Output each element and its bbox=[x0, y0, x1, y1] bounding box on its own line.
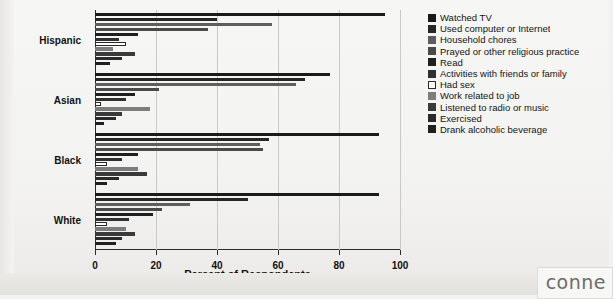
bar bbox=[95, 242, 116, 245]
bar bbox=[95, 83, 296, 86]
legend-item: Used computer or Internet bbox=[428, 23, 608, 34]
plot-area: 020406080100 bbox=[95, 10, 400, 250]
bar bbox=[95, 153, 138, 156]
legend-label: Prayed or other religious practice bbox=[440, 46, 579, 57]
bar bbox=[95, 158, 122, 161]
bar bbox=[95, 78, 305, 81]
legend-item: Listened to radio or music bbox=[428, 102, 608, 113]
x-axis-tick bbox=[95, 250, 96, 255]
y-axis-group-label: Asian bbox=[54, 95, 81, 106]
bar-group bbox=[95, 190, 400, 250]
legend-swatch-icon bbox=[428, 36, 436, 44]
legend-label: Watched TV bbox=[440, 12, 492, 23]
bar bbox=[95, 232, 135, 235]
bar bbox=[95, 18, 217, 21]
y-axis-group-label: Black bbox=[54, 155, 81, 166]
legend-item: Exercised bbox=[428, 113, 608, 124]
bar bbox=[95, 47, 113, 50]
bar bbox=[95, 133, 379, 136]
legend-item: Watched TV bbox=[428, 12, 608, 23]
x-axis-tick bbox=[339, 250, 340, 255]
gridline bbox=[400, 10, 401, 250]
legend-label: Had sex bbox=[440, 79, 475, 90]
x-axis-tick bbox=[400, 250, 401, 255]
legend-item: Drank alcoholic beverage bbox=[428, 124, 608, 135]
legend-label: Used computer or Internet bbox=[440, 23, 550, 34]
bar bbox=[95, 182, 107, 185]
bar bbox=[95, 203, 190, 206]
bar bbox=[95, 162, 107, 165]
legend-item: Work related to job bbox=[428, 90, 608, 101]
legend-label: Work related to job bbox=[440, 90, 520, 101]
legend-swatch-icon bbox=[428, 14, 436, 22]
legend-item: Read bbox=[428, 57, 608, 68]
x-axis-tick bbox=[278, 250, 279, 255]
bar bbox=[95, 107, 150, 110]
legend-swatch-icon bbox=[428, 47, 436, 55]
bar bbox=[95, 227, 126, 230]
legend-swatch-icon bbox=[428, 81, 436, 89]
legend-label: Household chores bbox=[440, 34, 517, 45]
bar bbox=[95, 198, 248, 201]
legend-item: Activities with friends or family bbox=[428, 68, 608, 79]
legend-label: Exercised bbox=[440, 113, 482, 124]
legend-label: Drank alcoholic beverage bbox=[440, 124, 547, 135]
footer-band bbox=[0, 273, 609, 295]
legend-item: Prayed or other religious practice bbox=[428, 46, 608, 57]
legend-item: Household chores bbox=[428, 34, 608, 45]
bar bbox=[95, 222, 107, 225]
legend: Watched TVUsed computer or InternetHouse… bbox=[428, 12, 608, 135]
bar bbox=[95, 88, 159, 91]
bar bbox=[95, 213, 153, 216]
x-axis-tick bbox=[217, 250, 218, 255]
legend-label: Listened to radio or music bbox=[440, 102, 549, 113]
watermark-logo: conne bbox=[537, 267, 613, 299]
legend-swatch-icon bbox=[428, 125, 436, 133]
bar bbox=[95, 57, 122, 60]
bar bbox=[95, 33, 138, 36]
bar bbox=[95, 93, 135, 96]
bar-group bbox=[95, 70, 400, 130]
bar bbox=[95, 143, 260, 146]
bar bbox=[95, 208, 162, 211]
legend-item: Had sex bbox=[428, 79, 608, 90]
bar bbox=[95, 193, 379, 196]
bar bbox=[95, 52, 135, 55]
bar bbox=[95, 218, 129, 221]
legend-swatch-icon bbox=[428, 25, 436, 33]
bar bbox=[95, 237, 122, 240]
y-axis-group-labels: HispanicAsianBlackWhite bbox=[0, 10, 88, 250]
legend-swatch-icon bbox=[428, 70, 436, 78]
bar bbox=[95, 148, 263, 151]
bar bbox=[95, 112, 122, 115]
bar bbox=[95, 62, 110, 65]
bar bbox=[95, 138, 269, 141]
bar bbox=[95, 177, 119, 180]
bar bbox=[95, 102, 101, 105]
legend-swatch-icon bbox=[428, 92, 436, 100]
bar bbox=[95, 167, 138, 170]
bar bbox=[95, 73, 330, 76]
bar bbox=[95, 98, 126, 101]
bar bbox=[95, 172, 147, 175]
legend-label: Activities with friends or family bbox=[440, 68, 567, 79]
x-axis-tick bbox=[156, 250, 157, 255]
legend-label: Read bbox=[440, 57, 463, 68]
y-axis-group-label: Hispanic bbox=[39, 35, 81, 46]
bar bbox=[95, 122, 104, 125]
bar bbox=[95, 23, 272, 26]
bar bbox=[95, 13, 385, 16]
bar bbox=[95, 117, 116, 120]
legend-swatch-icon bbox=[428, 114, 436, 122]
bar-group bbox=[95, 130, 400, 190]
bar bbox=[95, 38, 119, 41]
bar-group bbox=[95, 10, 400, 70]
legend-swatch-icon bbox=[428, 103, 436, 111]
y-axis-group-label: White bbox=[54, 215, 81, 226]
bar bbox=[95, 42, 126, 45]
bar bbox=[95, 28, 208, 31]
legend-swatch-icon bbox=[428, 58, 436, 66]
